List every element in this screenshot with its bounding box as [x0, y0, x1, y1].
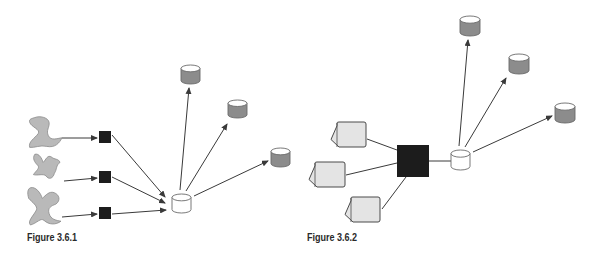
arrow-connector-9: [194, 161, 268, 196]
target-database-icon-2: [509, 54, 529, 74]
target-database-icon-3: [271, 148, 290, 167]
line-connector-2: [346, 163, 397, 175]
document-source-shape-3: [345, 197, 380, 222]
target-database-icon-2: [228, 100, 247, 118]
hub-database-icon: [172, 194, 191, 213]
amorphous-source-shape-1: [29, 117, 62, 148]
target-database-icon-1: [460, 16, 480, 36]
amorphous-source-shape-3: [28, 188, 61, 225]
arrow-connector-8: [186, 124, 227, 191]
arrow-connector-5: [112, 177, 165, 203]
arrow-connector-6: [465, 78, 506, 147]
target-database-icon-1: [181, 65, 200, 84]
line-connector-3: [382, 177, 406, 209]
arrow-connector-5: [459, 40, 468, 146]
processor-box-1: [397, 145, 429, 177]
caption-figure-3-6-1: Figure 3.6.1: [27, 231, 77, 243]
arrow-connector-4: [112, 135, 165, 197]
caption-figure-3-6-2: Figure 3.6.2: [307, 231, 357, 243]
arrow-connector-7: [473, 116, 552, 152]
figure-3-6-1: [28, 65, 290, 225]
arrow-connector-6: [112, 210, 166, 214]
hub-database-icon: [451, 150, 470, 170]
amorphous-source-shape-2: [33, 154, 60, 178]
line-connector-1: [367, 139, 397, 150]
document-source-shape-1: [331, 122, 366, 147]
figure-3-6-2: [309, 16, 575, 222]
processor-box-3: [99, 207, 111, 219]
arrow-connector-3: [62, 214, 97, 217]
processor-box-1: [99, 131, 111, 143]
arrow-connector-2: [64, 178, 97, 181]
diagram-canvas: [0, 0, 605, 262]
target-database-icon-3: [555, 103, 575, 123]
processor-box-2: [99, 171, 111, 183]
arrow-connector-7: [180, 88, 189, 190]
document-source-shape-2: [309, 162, 345, 187]
